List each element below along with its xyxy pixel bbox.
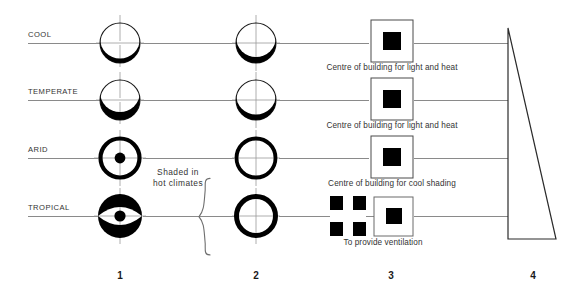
- symbol-col4-triangle: [508, 28, 556, 239]
- brace-annotation-line2: hot climates: [153, 178, 203, 189]
- row-label-cool: COOL: [28, 30, 51, 39]
- caption-tropical: To provide ventilation: [343, 238, 422, 247]
- row-label-temperate: TEMPERATE: [28, 87, 78, 96]
- brace-annotation: Shaded in hot climates: [153, 167, 203, 189]
- symbol-col3-cool: [371, 20, 413, 62]
- column-number-4: 4: [530, 270, 536, 281]
- symbol-col3-arid: [371, 136, 413, 178]
- symbol-col1-cool: [98, 23, 142, 63]
- row-label-tropical: TROPICAL: [28, 203, 70, 212]
- caption-cool: Centre of building for light and heat: [326, 63, 457, 72]
- diagram-canvas: COOL TEMPERATE ARID TROPICAL Centre of b…: [0, 0, 582, 294]
- column-number-2: 2: [253, 270, 259, 281]
- symbol-col2-temperate: [234, 78, 278, 122]
- caption-temperate: Centre of building for light and heat: [326, 121, 457, 130]
- symbol-col1-temperate: [98, 78, 142, 122]
- diagram-svg: [0, 0, 582, 294]
- symbol-col1-tropical: [96, 192, 144, 240]
- column-number-3: 3: [388, 270, 394, 281]
- shaded-hot-climates-brace: [199, 178, 210, 255]
- row-label-arid: ARID: [28, 145, 48, 154]
- symbol-col3-temperate: [371, 78, 413, 120]
- column-number-1: 1: [117, 270, 123, 281]
- caption-arid: Centre of building for cool shading: [328, 179, 456, 188]
- symbol-col2-cool: [234, 21, 278, 65]
- symbol-col3-tropical-ventilation: [330, 196, 366, 236]
- symbol-col3-tropical-square: [374, 197, 413, 236]
- brace-annotation-line1: Shaded in: [153, 167, 203, 178]
